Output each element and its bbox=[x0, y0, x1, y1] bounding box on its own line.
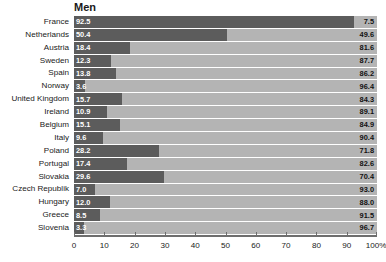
table-row: 7.093.0 bbox=[74, 184, 377, 196]
bar-value-right: 7.5 bbox=[364, 16, 374, 28]
category-label: Ireland bbox=[0, 106, 69, 118]
category-label: Spain bbox=[0, 68, 69, 80]
x-axis-tick bbox=[74, 232, 75, 237]
bar-value-left: 12.3 bbox=[76, 55, 90, 67]
category-label: Belgium bbox=[0, 119, 69, 131]
bar-value-left: 28.2 bbox=[76, 145, 90, 157]
bar-value-left: 10.9 bbox=[76, 106, 90, 118]
table-row: 15.784.3 bbox=[74, 93, 377, 105]
plot-area: 92.57.550.449.618.481.612.387.713.886.23… bbox=[74, 16, 377, 235]
category-axis-labels: FranceNetherlandsAustriaSwedenSpainNorwa… bbox=[0, 16, 69, 235]
bar-value-left: 8.5 bbox=[76, 209, 86, 221]
table-row: 9.690.4 bbox=[74, 132, 377, 144]
category-label: Czech Republik bbox=[0, 184, 69, 196]
x-axis-tick-label: 20 bbox=[130, 242, 139, 250]
table-row: 8.591.5 bbox=[74, 209, 377, 221]
bar-value-right: 70.4 bbox=[360, 171, 374, 183]
table-row: 10.989.1 bbox=[74, 106, 377, 118]
bar-value-right: 82.6 bbox=[360, 158, 374, 170]
category-label: Norway bbox=[0, 80, 69, 92]
category-label: Slovenia bbox=[0, 222, 69, 234]
bar-value-right: 88.0 bbox=[360, 196, 374, 208]
bar-value-right: 84.3 bbox=[360, 93, 374, 105]
bar-value-right: 81.6 bbox=[360, 42, 374, 54]
x-axis-tick-label: 90 bbox=[342, 242, 351, 250]
table-row: 18.481.6 bbox=[74, 42, 377, 54]
x-axis-tick-label: 0 bbox=[72, 242, 77, 250]
table-row: 12.088.0 bbox=[74, 196, 377, 208]
x-axis-tick bbox=[286, 232, 287, 237]
x-axis-tick-label: 40 bbox=[191, 242, 200, 250]
x-axis-tick-label: 50 bbox=[221, 242, 230, 250]
category-label: Poland bbox=[0, 145, 69, 157]
bar-value-right: 71.8 bbox=[360, 145, 374, 157]
bar-value-right: 89.1 bbox=[360, 106, 374, 118]
x-axis-tick bbox=[316, 232, 317, 237]
bar-value-right: 96.4 bbox=[360, 80, 374, 92]
chart-title: Men bbox=[74, 1, 96, 14]
x-axis-tick-label: 10 bbox=[100, 242, 109, 250]
table-row: 28.271.8 bbox=[74, 145, 377, 157]
bar-value-left: 7.0 bbox=[76, 184, 86, 196]
bar-segment-right bbox=[74, 55, 377, 67]
x-axis-tick-label: 30 bbox=[160, 242, 169, 250]
x-axis-tick-label: 70 bbox=[282, 242, 291, 250]
bar-value-right: 96.7 bbox=[360, 222, 374, 234]
bar-value-right: 91.5 bbox=[360, 209, 374, 221]
bar-segment-right bbox=[74, 132, 377, 144]
bar-value-left: 3.6 bbox=[76, 80, 86, 92]
table-row: 92.57.5 bbox=[74, 16, 377, 28]
x-axis-tick-label: 60 bbox=[251, 242, 260, 250]
category-label: Portugal bbox=[0, 158, 69, 170]
table-row: 17.482.6 bbox=[74, 158, 377, 170]
bar-value-left: 17.4 bbox=[76, 158, 90, 170]
x-axis-line bbox=[74, 235, 377, 237]
bar-value-left: 29.6 bbox=[76, 171, 90, 183]
category-label: United Kingdom bbox=[0, 93, 69, 105]
table-row: 50.449.6 bbox=[74, 29, 377, 41]
x-axis-tick-label: 100% bbox=[366, 242, 386, 250]
category-label: Slovakia bbox=[0, 171, 69, 183]
bar-value-left: 9.6 bbox=[76, 132, 86, 144]
bar-value-right: 49.6 bbox=[360, 29, 374, 41]
bar-value-left: 3.3 bbox=[76, 222, 86, 234]
x-axis-tick bbox=[195, 232, 196, 237]
table-row: 15.184.9 bbox=[74, 119, 377, 131]
bar-value-left: 15.7 bbox=[76, 93, 90, 105]
bar-segment-right bbox=[74, 184, 377, 196]
bar-value-left: 12.0 bbox=[76, 196, 90, 208]
bar-value-right: 84.9 bbox=[360, 119, 374, 131]
category-label: Greece bbox=[0, 209, 69, 221]
table-row: 13.886.2 bbox=[74, 68, 377, 80]
x-axis-tick bbox=[104, 232, 105, 237]
x-axis-tick bbox=[165, 232, 166, 237]
bar-value-left: 15.1 bbox=[76, 119, 90, 131]
bar-value-left: 50.4 bbox=[76, 29, 90, 41]
category-label: Austria bbox=[0, 42, 69, 54]
category-label: Netherlands bbox=[0, 29, 69, 41]
bar-value-right: 93.0 bbox=[360, 184, 374, 196]
bar-value-left: 18.4 bbox=[76, 42, 90, 54]
bar-value-left: 13.8 bbox=[76, 68, 90, 80]
x-axis-tick bbox=[347, 232, 348, 237]
category-label: France bbox=[0, 16, 69, 28]
bar-segment-right bbox=[74, 196, 377, 208]
bar-value-right: 90.4 bbox=[360, 132, 374, 144]
bar-segment-left bbox=[74, 16, 354, 28]
category-label: Hungary bbox=[0, 196, 69, 208]
x-axis-tick bbox=[376, 232, 377, 237]
bar-value-left: 92.5 bbox=[76, 16, 90, 28]
x-axis-tick bbox=[226, 232, 227, 237]
table-row: 3.696.4 bbox=[74, 80, 377, 92]
category-label: Sweden bbox=[0, 55, 69, 67]
bar-segment-right bbox=[74, 209, 377, 221]
table-row: 12.387.7 bbox=[74, 55, 377, 67]
bar-segment-right bbox=[74, 106, 377, 118]
bar-value-right: 86.2 bbox=[360, 68, 374, 80]
bar-segment-right bbox=[74, 80, 377, 92]
x-axis-tick bbox=[256, 232, 257, 237]
bar-segment-left bbox=[74, 29, 227, 41]
x-axis-tick bbox=[135, 232, 136, 237]
bar-segment-right bbox=[74, 68, 377, 80]
